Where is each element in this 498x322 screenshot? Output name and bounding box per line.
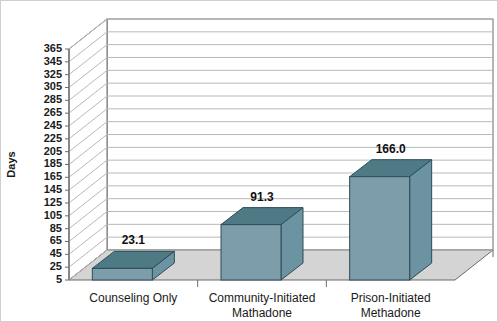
bar-value-label: 166.0 <box>376 142 406 156</box>
y-axis-tick-label: 65 <box>50 234 62 246</box>
y-axis-tick-label: 5 <box>56 273 62 285</box>
y-axis-tick-label: 305 <box>44 80 62 92</box>
y-axis-tick-label: 125 <box>44 196 62 208</box>
x-axis-category-label: Prison-Initiated <box>351 291 431 305</box>
y-axis-tick-label: 145 <box>44 183 62 195</box>
x-axis-category-label: Mathadone <box>232 306 292 320</box>
bar-side-face <box>410 160 432 280</box>
bar-3 <box>350 160 432 280</box>
x-axis-category-label: Methadone <box>361 306 421 320</box>
y-axis-tick-label: 265 <box>44 106 62 118</box>
bar-value-label: 91.3 <box>250 190 274 204</box>
bar-value-label: 23.1 <box>122 233 146 247</box>
x-axis-category-label: Counseling Only <box>89 291 177 305</box>
y-axis-tick-label: 285 <box>44 93 62 105</box>
y-axis-tick-label: 185 <box>44 157 62 169</box>
y-axis-tick-label: 25 <box>50 260 62 272</box>
bar-front-face <box>92 268 152 280</box>
y-axis-title-group: Days <box>5 151 17 177</box>
y-axis-tick-label: 245 <box>44 119 62 131</box>
bar-2 <box>221 208 303 280</box>
y-axis-tick-label: 205 <box>44 145 62 157</box>
y-axis-tick-label: 105 <box>44 209 62 221</box>
y-axis-tick-label: 45 <box>50 247 62 259</box>
y-axis-tick-label: 225 <box>44 132 62 144</box>
bar-front-face <box>350 177 410 280</box>
y-axis-tick-label: 165 <box>44 170 62 182</box>
chart-canvas: 5254565851051251451651852052252452652853… <box>1 1 498 322</box>
x-axis-category-label: Community-Initiated <box>209 291 316 305</box>
category-labels-group: Counseling OnlyCommunity-InitiatedMathad… <box>89 291 430 320</box>
y-axis-tick-label: 345 <box>44 55 62 67</box>
y-axis-tick-label: 365 <box>44 42 62 54</box>
bar-chart-figure: 5254565851051251451651852052252452652853… <box>0 0 498 322</box>
y-axis-group: 5254565851051251451651852052252452652853… <box>44 42 69 285</box>
y-axis-tick-label: 85 <box>50 222 62 234</box>
bar-front-face <box>221 225 281 280</box>
y-axis-tick-label: 325 <box>44 68 62 80</box>
y-axis-title: Days <box>5 151 17 177</box>
